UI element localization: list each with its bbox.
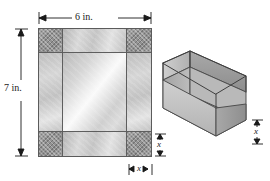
sheet-width-label: 6 in. <box>75 12 93 22</box>
sheet-height-label: 7 in. <box>4 83 22 93</box>
sheet-cell-top-right <box>127 29 151 53</box>
sheet-cell-top-left <box>39 29 63 53</box>
sheet-cell-bottom-left <box>39 132 63 156</box>
sheet-cell-middle-left <box>39 53 63 132</box>
figure-open-box-from-sheet: 6 in. 7 in. x x x <box>0 0 270 181</box>
sheet-cell-middle-right <box>127 53 151 132</box>
sheet-cell-bottom-right <box>127 132 151 156</box>
flat-metal-sheet <box>38 28 152 157</box>
sheet-cell-center <box>63 53 127 132</box>
sheet-cell-top-middle <box>63 29 127 53</box>
box-height-label: x <box>254 127 258 136</box>
sheet-cell-bottom-middle <box>63 132 127 156</box>
sheet-corner-height-label: x <box>157 140 161 149</box>
sheet-corner-width-label: x <box>137 164 141 173</box>
